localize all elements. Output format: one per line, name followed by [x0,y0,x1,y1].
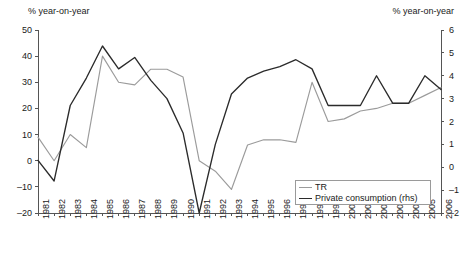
plot-area [0,0,472,257]
legend-line-swatch-private-consumption [299,198,312,199]
legend-label-private-consumption: Private consumption (rhs) [315,193,418,204]
chart-legend: TR Private consumption (rhs) [295,180,431,205]
series-line-tr [38,56,441,189]
chart-container: % year-on-year % year-on-year 5040302010… [0,0,472,257]
legend-item-private-consumption: Private consumption (rhs) [299,193,427,204]
legend-item-tr: TR [299,182,427,193]
legend-label-tr: TR [315,182,327,193]
legend-line-swatch-tr [299,187,312,188]
